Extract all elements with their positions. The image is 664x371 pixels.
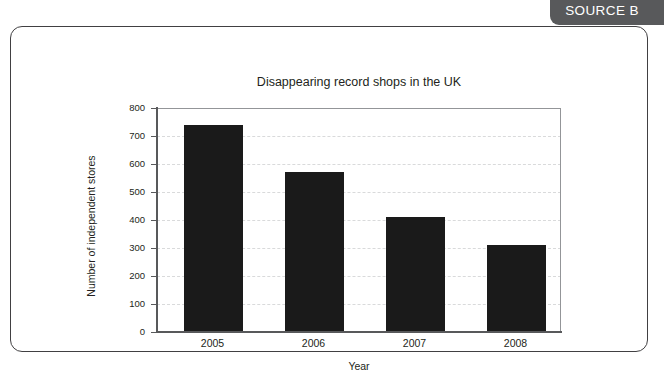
y-tick-label-500: 500 — [107, 186, 145, 197]
bar-2005 — [184, 125, 243, 332]
bar-2006 — [285, 172, 344, 332]
y-tick-label-200: 200 — [107, 270, 145, 281]
tick-100 — [151, 304, 157, 305]
y-tick-label-0: 0 — [107, 326, 145, 337]
tick-300 — [151, 248, 157, 249]
bar-2008 — [487, 245, 546, 332]
bar-2007 — [386, 217, 445, 332]
tick-400 — [151, 220, 157, 221]
y-tick-label-400: 400 — [107, 214, 145, 225]
tick-0 — [151, 332, 157, 333]
tick-600 — [151, 164, 157, 165]
chart-card: Disappearing record shops in the UK Numb… — [10, 26, 648, 352]
chart-title: Disappearing record shops in the UK — [157, 75, 561, 89]
y-tick-label-600: 600 — [107, 158, 145, 169]
y-tick-label-700: 700 — [107, 130, 145, 141]
tick-200 — [151, 276, 157, 277]
x-axis-line — [156, 331, 562, 333]
source-banner: SOURCE B — [550, 0, 664, 25]
tick-500 — [151, 192, 157, 193]
source-banner-label: SOURCE B — [550, 3, 654, 18]
x-tick-label-2005: 2005 — [162, 337, 263, 349]
y-axis-title: Number of independent stores — [85, 126, 97, 326]
x-tick-label-2006: 2006 — [263, 337, 364, 349]
x-axis-title: Year — [157, 360, 561, 371]
tick-700 — [151, 136, 157, 137]
y-tick-label-300: 300 — [107, 242, 145, 253]
y-tick-label-800: 800 — [107, 102, 145, 113]
x-tick-label-2007: 2007 — [364, 337, 465, 349]
tick-800 — [151, 108, 157, 109]
x-tick-label-2008: 2008 — [465, 337, 566, 349]
y-tick-label-100: 100 — [107, 298, 145, 309]
